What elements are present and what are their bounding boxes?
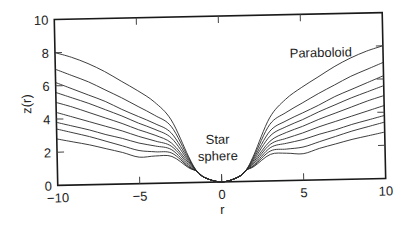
x-tick-label: −5 — [132, 189, 147, 204]
annotation-paraboloid: Paraboloid — [289, 44, 351, 60]
y-tick-label: 8 — [42, 46, 50, 61]
y-axis-label: z(r) — [19, 94, 34, 114]
x-tick-label: 10 — [379, 183, 394, 198]
y-tick-label: 0 — [44, 179, 52, 194]
chart: −10−50510 0246810 r z(r) ParaboloidStars… — [0, 0, 414, 226]
x-tick-label: 5 — [300, 185, 308, 200]
surface-curve — [56, 76, 386, 186]
y-tick-label: 2 — [44, 145, 52, 160]
y-tick-label: 4 — [43, 112, 51, 127]
y-tick-labels: 0246810 — [34, 13, 52, 194]
curves-group — [55, 46, 386, 186]
surface-curve — [55, 46, 386, 186]
annotation-star: Star — [205, 132, 230, 148]
y-tick-label: 6 — [42, 79, 50, 94]
surface-curve — [55, 62, 385, 185]
annotation-sphere: sphere — [198, 148, 238, 164]
x-tick-label: 0 — [218, 187, 226, 202]
y-tick-label: 10 — [34, 13, 49, 28]
plot-area: −10−50510 0246810 r z(r) ParaboloidStars… — [17, 5, 394, 221]
x-axis-label: r — [220, 202, 225, 217]
